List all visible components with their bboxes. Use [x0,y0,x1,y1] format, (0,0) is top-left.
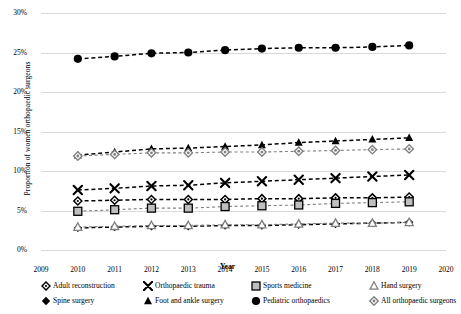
legend-label: Foot and ankle surgery [155,297,224,305]
series-line [78,202,409,211]
legend-marker-filled-diamond-icon [41,296,51,306]
series-spine-surgery [74,218,414,232]
legend-marker-gray-square-icon [251,281,261,291]
legend-item[interactable]: Orthopaedic trauma [143,281,251,291]
legend-item[interactable]: Pediatric orthopaedics [251,296,369,306]
x-tick-label: 2012 [131,265,171,274]
x-tick-label: 2009 [21,265,61,274]
x-tick-label: 2018 [352,265,392,274]
legend-label: Spine surgery [53,297,94,305]
legend-marker-filled-triangle-icon [143,296,153,306]
legend-marker-cross-x-icon [143,281,153,291]
legend-label: Adult reconstruction [53,282,115,290]
legend-item[interactable]: Hand surgery [369,281,456,291]
legend-item[interactable]: All orthopaedic surgeons [369,296,456,306]
chart-legend: Adult reconstructionOrthopaedic traumaSp… [41,278,451,308]
series-hand-surgery [74,218,413,230]
y-tick-label: 10% [0,166,27,175]
x-tick-label: 2011 [95,265,135,274]
plot-area: 0%5%10%15%20%25%30% 20092010201120122013… [41,13,446,250]
y-tick-label: 5% [0,206,27,215]
series-pediatric-orthopaedics [74,41,414,63]
series-foot-and-ankle-surgery [74,134,413,159]
x-tick-label: 2017 [316,265,356,274]
series-line [78,197,409,201]
series-all-orthopaedic-surgeons [74,145,414,161]
y-tick-label: 20% [0,87,27,96]
legend-marker-open-triangle-icon [369,281,379,291]
gridline [41,250,446,251]
y-tick-label: 15% [0,127,27,136]
x-tick-label: 2016 [279,265,319,274]
legend-label: Pediatric orthopaedics [263,297,330,305]
series-orthopaedic-trauma [74,171,414,194]
series-line [78,45,409,58]
x-tick-label: 2020 [426,265,461,274]
y-tick-label: 25% [0,48,27,57]
legend-item[interactable]: Adult reconstruction [41,281,143,291]
series-line [78,149,409,156]
series-line [78,138,409,155]
series-line [78,175,409,190]
series-layer [41,13,446,250]
series-adult-reconstruction [74,193,413,205]
legend-item[interactable]: Spine surgery [41,296,143,306]
legend-item[interactable]: Foot and ankle surgery [143,296,251,306]
y-tick-label: 30% [0,8,27,17]
y-tick-label: 0% [0,245,27,254]
x-tick-label: 2010 [58,265,98,274]
x-tick-label: 2015 [242,265,282,274]
legend-marker-open-diamond-dot-icon [369,296,379,306]
legend-label: Sports medicine [263,282,312,290]
legend-label: Orthopaedic trauma [155,282,215,290]
legend-label: All orthopaedic surgeons [381,297,456,305]
x-tick-label: 2019 [389,265,429,274]
legend-item[interactable]: Sports medicine [251,281,369,291]
legend-label: Hand surgery [381,282,421,290]
legend-marker-open-diamond-icon [41,281,51,291]
x-tick-label: 2014 [205,265,245,274]
legend-marker-filled-circle-icon [251,296,261,306]
series-sports-medicine [74,198,413,215]
x-tick-label: 2013 [168,265,208,274]
